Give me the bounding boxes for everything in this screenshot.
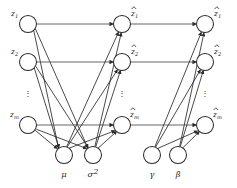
edge-group-normalized-to-output-skip xyxy=(131,24,197,125)
label-ztilde2: z2 xyxy=(213,47,221,57)
edge-z1-mu xyxy=(34,30,59,148)
label-ztilde1: z1 xyxy=(213,9,221,19)
label-zhat1: z1 xyxy=(130,9,138,19)
edge-group-gamma-to-output xyxy=(155,32,202,148)
node-sigma2 xyxy=(85,147,102,164)
label-beta: β xyxy=(175,169,181,179)
edge-gamma-ztilde1 xyxy=(155,32,202,147)
node-gamma xyxy=(144,147,161,164)
node-zhat2 xyxy=(114,54,131,71)
label-z2: z2 xyxy=(10,47,18,57)
node-ztilde2 xyxy=(197,54,214,71)
label-zhat2: z2 xyxy=(130,47,138,57)
labels-layer: z1 z2 zm ⋮ z1 z2 zm ⋮ z1 z2 zm ⋮ μ σ2 γ … xyxy=(9,7,222,179)
ellipsis-normalized-column: ⋮ xyxy=(118,89,126,98)
edge-sigma2-zhat2 xyxy=(96,70,121,147)
edge-mu-zhat1 xyxy=(67,32,119,147)
label-gamma: γ xyxy=(150,169,155,179)
label-mu: μ xyxy=(61,169,66,179)
label-ztildem: zm xyxy=(212,110,222,120)
node-ztildem xyxy=(197,117,214,134)
ellipsis-input-column: ⋮ xyxy=(24,89,32,98)
node-zm xyxy=(20,117,37,134)
edge-group-inputs-to-mean xyxy=(34,30,59,149)
edge-group-mean-to-normalized xyxy=(67,32,119,148)
label-sigma2: σ2 xyxy=(88,166,99,179)
ellipsis-output-column: ⋮ xyxy=(201,89,209,98)
edge-beta-ztilde2 xyxy=(180,70,203,147)
label-zm: zm xyxy=(9,110,19,120)
edge-group-inputs-to-variance xyxy=(35,29,88,149)
batchnorm-diagram: z1 z2 zm ⋮ z1 z2 zm ⋮ z1 z2 zm ⋮ μ σ2 γ … xyxy=(0,0,237,188)
node-mu xyxy=(56,147,73,164)
node-zhatm xyxy=(114,117,131,134)
node-ztilde1 xyxy=(197,16,214,33)
label-z1: z1 xyxy=(10,9,18,19)
edge-group-inputs-to-normalized-skip xyxy=(37,24,114,125)
edge-zm-sigma2 xyxy=(36,129,86,148)
node-z2 xyxy=(20,54,37,71)
edge-z2-mu xyxy=(34,68,59,148)
network-graph-canvas: z1 z2 zm ⋮ z1 z2 zm ⋮ z1 z2 zm ⋮ μ σ2 γ … xyxy=(0,0,237,188)
label-zhatm: zm xyxy=(129,110,139,120)
node-zhat1 xyxy=(114,16,131,33)
node-beta xyxy=(170,147,187,164)
edge-z2-sigma2 xyxy=(36,66,88,147)
node-z1 xyxy=(20,16,37,33)
edge-z1-sigma2 xyxy=(35,29,88,149)
